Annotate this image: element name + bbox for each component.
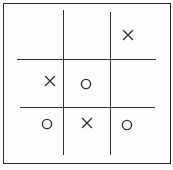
board-cell-r2-c0[interactable]: O [17,107,63,155]
board-cell-r0-c0[interactable] [17,10,63,59]
o-mark-icon [79,77,93,91]
x-mark-icon [43,74,57,88]
board-cell-r2-c1[interactable]: X [63,107,110,155]
x-mark-icon [80,116,94,130]
o-mark-icon [120,118,134,132]
board-cell-r1-c2[interactable] [110,59,156,107]
x-mark-icon [121,28,135,42]
board-cell-r0-c1[interactable] [63,10,110,59]
o-mark-icon [40,117,54,131]
